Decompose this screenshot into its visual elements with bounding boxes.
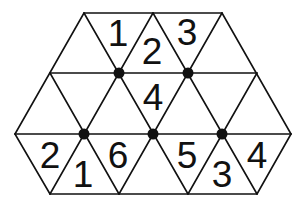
cell-number: 2 [142, 31, 163, 72]
cell-number: 2 [40, 135, 61, 176]
grid-line [153, 13, 257, 194]
vertex-dot [217, 129, 228, 140]
cell-number: 1 [108, 13, 129, 54]
vertex-dot [114, 68, 125, 79]
grid-line [50, 13, 153, 194]
vertex-dot [183, 68, 194, 79]
vertex-dot [148, 129, 159, 140]
cell-number: 3 [177, 12, 198, 53]
vertex-dot [79, 129, 90, 140]
cell-number: 3 [212, 154, 233, 195]
cell-number: 4 [143, 77, 164, 118]
cell-number: 5 [177, 135, 198, 176]
cell-numbers: 1234216534 [40, 12, 268, 195]
cell-number: 1 [73, 154, 94, 195]
cell-number: 4 [247, 135, 268, 176]
cell-number: 6 [108, 135, 129, 176]
grid-line [119, 13, 222, 194]
grid-line [84, 13, 188, 194]
triangle-grid-puzzle: 1234216534 [0, 0, 303, 207]
